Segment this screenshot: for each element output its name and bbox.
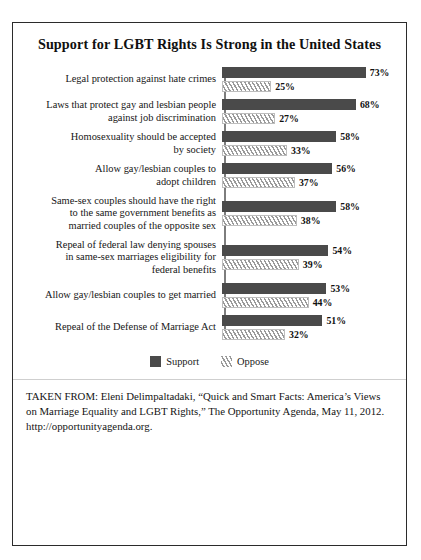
bar-group: 68%27% (220, 99, 406, 124)
bar-group: 56%37% (220, 163, 406, 188)
support-bar-row: 56% (222, 163, 406, 174)
oppose-bar (222, 329, 285, 340)
category-label: Allow gay/lesbian couples to get married (13, 289, 220, 301)
oppose-bar-row: 25% (222, 81, 406, 92)
support-value-label: 58% (340, 201, 360, 212)
support-swatch-icon (150, 356, 161, 367)
category-label: Laws that protect gay and lesbian people… (13, 99, 220, 124)
chart-row: Allow gay/lesbian couples to get married… (13, 283, 406, 308)
bar-group: 73%25% (220, 67, 406, 92)
bar-group: 54%39% (220, 245, 406, 270)
support-bar-row: 68% (222, 99, 406, 110)
oppose-bar-row: 27% (222, 113, 406, 124)
source-citation: TAKEN FROM: Eleni Delimpaltadaki, “Quick… (13, 380, 406, 435)
oppose-bar (222, 81, 271, 92)
oppose-bar (222, 297, 309, 308)
chart-row: Legal protection against hate crimes73%2… (13, 67, 406, 92)
oppose-value-label: 27% (279, 113, 299, 124)
oppose-bar-row: 33% (222, 145, 406, 156)
oppose-swatch-icon (221, 356, 232, 367)
oppose-value-label: 44% (313, 297, 333, 308)
support-bar-row: 58% (222, 201, 406, 212)
support-value-label: 68% (360, 99, 380, 110)
category-label: Repeal of federal law denying spousesin … (13, 239, 220, 276)
bar-group: 51%32% (220, 315, 406, 340)
support-bar (222, 67, 366, 78)
support-bar (222, 131, 336, 142)
oppose-bar-row: 32% (222, 329, 406, 340)
category-label: Same-sex couples should have the rightto… (13, 195, 220, 232)
chart-row: Homosexuality should be acceptedby socie… (13, 131, 406, 156)
oppose-value-label: 37% (299, 177, 319, 188)
oppose-value-label: 38% (301, 215, 321, 226)
support-value-label: 73% (370, 67, 390, 78)
category-label: Allow gay/lesbian couples toadopt childr… (13, 163, 220, 188)
support-bar-row: 58% (222, 131, 406, 142)
support-value-label: 51% (326, 315, 346, 326)
oppose-bar (222, 177, 295, 188)
oppose-bar-row: 37% (222, 177, 406, 188)
oppose-value-label: 32% (289, 329, 309, 340)
category-label: Repeal of the Defense of Marriage Act (13, 321, 220, 333)
oppose-bar-row: 44% (222, 297, 406, 308)
figure-frame: Support for LGBT Rights Is Strong in the… (12, 22, 407, 546)
legend-label-oppose: Oppose (237, 356, 269, 367)
oppose-value-label: 39% (303, 259, 323, 270)
support-bar (222, 245, 328, 256)
support-value-label: 53% (330, 283, 350, 294)
oppose-bar (222, 145, 287, 156)
support-bar (222, 99, 356, 110)
bar-group: 58%33% (220, 131, 406, 156)
bar-group: 53%44% (220, 283, 406, 308)
bar-group: 58%38% (220, 201, 406, 226)
support-bar-row: 54% (222, 245, 406, 256)
oppose-bar (222, 259, 299, 270)
category-label: Homosexuality should be acceptedby socie… (13, 131, 220, 156)
chart-rows: Legal protection against hate crimes73%2… (13, 67, 406, 340)
support-value-label: 54% (332, 245, 352, 256)
support-bar-row: 53% (222, 283, 406, 294)
support-value-label: 58% (340, 131, 360, 142)
support-bar (222, 315, 322, 326)
chart-row: Laws that protect gay and lesbian people… (13, 99, 406, 124)
legend-label-support: Support (166, 356, 199, 367)
support-bar (222, 283, 326, 294)
category-label: Legal protection against hate crimes (13, 73, 220, 85)
oppose-value-label: 33% (291, 145, 311, 156)
chart-row: Repeal of federal law denying spousesin … (13, 239, 406, 276)
support-value-label: 56% (336, 163, 356, 174)
support-bar (222, 201, 336, 212)
oppose-bar (222, 113, 275, 124)
chart-row: Same-sex couples should have the rightto… (13, 195, 406, 232)
oppose-bar-row: 38% (222, 215, 406, 226)
chart-row: Allow gay/lesbian couples toadopt childr… (13, 163, 406, 188)
chart-row: Repeal of the Defense of Marriage Act51%… (13, 315, 406, 340)
oppose-bar-row: 39% (222, 259, 406, 270)
oppose-bar (222, 215, 297, 226)
support-bar-row: 51% (222, 315, 406, 326)
support-bar-row: 73% (222, 67, 406, 78)
chart-legend: Support Oppose (13, 356, 406, 367)
plot-area: Legal protection against hate crimes73%2… (13, 67, 406, 340)
legend-item-oppose: Oppose (221, 356, 269, 367)
oppose-value-label: 25% (275, 81, 295, 92)
chart-title: Support for LGBT Rights Is Strong in the… (23, 36, 396, 53)
legend-item-support: Support (150, 356, 199, 367)
support-bar (222, 163, 332, 174)
